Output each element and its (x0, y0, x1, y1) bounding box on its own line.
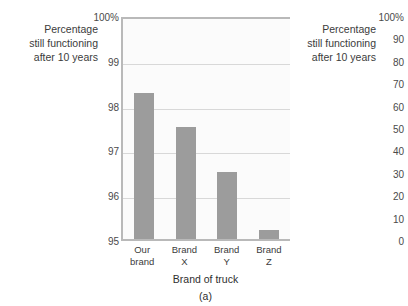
x-axis-tick-label-line1: Brand (206, 244, 248, 256)
x-axis-tick-label-line2: Y (206, 256, 248, 268)
y-axis-tick-label: 96 (86, 191, 119, 202)
panel-caption-a: (a) (121, 290, 290, 302)
y-axis-tick-label: 50 (374, 124, 404, 135)
bar (134, 93, 154, 239)
y-axis-tick-labels-a: 100% 99 98 97 96 95 (86, 0, 119, 306)
y-axis-tick-label: 0 (374, 236, 404, 247)
y-axis-title-b-line3: after 10 years (294, 50, 376, 64)
x-axis-tick-label-line1: Our (121, 244, 163, 256)
bar (259, 230, 279, 239)
x-axis-tick-label: Brand Y (206, 244, 248, 267)
y-axis-tick-label: 80 (374, 56, 404, 67)
y-axis-title-b: Percentage still functioning after 10 ye… (294, 22, 376, 64)
y-axis-tick-label: 70 (374, 79, 404, 90)
x-axis-tick-labels-a: Our brand Brand X Brand Y Brand Z (121, 244, 290, 267)
y-axis-tick-label: 100% (374, 12, 404, 23)
y-axis-tick-label: 60 (374, 101, 404, 112)
y-axis-tick-label: 10 (374, 213, 404, 224)
y-axis-tick-label: 20 (374, 191, 404, 202)
x-axis-tick-label: Brand Z (248, 244, 290, 267)
chart-panel-a: Percentage still functioning after 10 ye… (0, 0, 292, 306)
y-axis-title-a-line2: still functioning (6, 36, 98, 50)
y-axis-tick-label: 30 (374, 168, 404, 179)
x-axis-tick-label-line2: brand (121, 256, 163, 268)
y-axis-title-a-line3: after 10 years (6, 50, 98, 64)
chart-panel-b: Percentage still functioning after 10 ye… (292, 0, 408, 306)
y-axis-tick-label: 90 (374, 34, 404, 45)
x-axis-tick-label: Brand X (163, 244, 205, 267)
x-axis-tick-label-line2: X (163, 256, 205, 268)
y-axis-tick-labels-b: 100% 90 80 70 60 50 40 30 20 10 0 (374, 0, 406, 306)
y-axis-title-a: Percentage still functioning after 10 ye… (6, 22, 98, 64)
x-axis-tick-label-line1: Brand (163, 244, 205, 256)
bar (176, 127, 196, 239)
bar-series-a (123, 19, 290, 239)
y-axis-tick-label: 40 (374, 146, 404, 157)
y-axis-tick-label: 99 (86, 56, 119, 67)
y-axis-tick-label: 97 (86, 146, 119, 157)
y-axis-tick-label: 100% (86, 12, 119, 23)
plot-area-a (121, 17, 290, 241)
y-axis-title-b-line2: still functioning (294, 36, 376, 50)
x-axis-tick-label: Our brand (121, 244, 163, 267)
y-axis-tick-label: 98 (86, 101, 119, 112)
x-axis-title-a: Brand of truck (121, 273, 290, 285)
x-axis-tick-label-line1: Brand (248, 244, 290, 256)
y-axis-title-a-line1: Percentage (6, 22, 98, 36)
bar (217, 172, 237, 239)
y-axis-title-b-line1: Percentage (294, 22, 376, 36)
x-axis-tick-label-line2: Z (248, 256, 290, 268)
y-axis-tick-label: 95 (86, 236, 119, 247)
